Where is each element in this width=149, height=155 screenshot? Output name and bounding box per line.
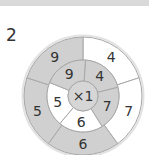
inner-number: 5: [53, 94, 62, 110]
outer-number: 9: [50, 49, 59, 65]
inner-number: 7: [103, 98, 112, 114]
outer-number: 4: [107, 49, 116, 65]
outer-number: 6: [79, 136, 88, 152]
center-label: ×1: [73, 88, 94, 104]
outer-number: 5: [33, 103, 42, 119]
inner-number: 4: [95, 68, 104, 84]
multiplication-wheel: 4765947659×1: [0, 0, 149, 155]
outer-number: 7: [124, 103, 133, 119]
inner-number: 9: [65, 66, 74, 82]
inner-number: 6: [77, 114, 86, 130]
